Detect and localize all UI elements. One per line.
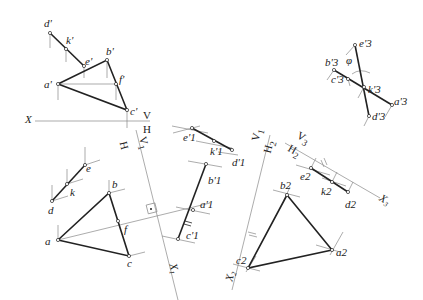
label-b3-prime: b'3 [325, 57, 338, 68]
label-c-prime: c' [130, 106, 137, 117]
label-e: e [86, 163, 91, 174]
plane-h-label: H [143, 124, 151, 135]
label-a: a [45, 236, 51, 247]
triangle-abc-h2 [248, 195, 332, 268]
axis-x-label: X [25, 114, 32, 125]
label-c: c [127, 258, 132, 269]
label-a3-prime: a'3 [394, 96, 407, 107]
angle-phi: φ [346, 55, 352, 66]
label-k3-prime: k'3 [368, 84, 381, 95]
label-k-prime: k' [66, 35, 73, 46]
label-a-prime: a' [44, 79, 52, 90]
label-a1-prime: a'1 [200, 199, 213, 210]
label-c1-prime: c'1 [186, 230, 199, 241]
label-b-prime: b' [106, 46, 114, 57]
label-k1-prime: k'1 [210, 146, 223, 157]
axis-x1 [136, 130, 178, 300]
label-a2: a2 [336, 247, 347, 258]
right-angle-dot [150, 208, 152, 210]
label-e3-prime: e'3 [359, 38, 372, 49]
label-d2: d2 [345, 199, 356, 210]
segment-de-v3 [355, 45, 369, 116]
label-k2: k2 [321, 186, 331, 197]
label-e-prime: e' [85, 56, 92, 67]
label-e2: e2 [300, 171, 310, 182]
triangle-abc-h [58, 193, 129, 256]
label-f-prime: f' [119, 74, 124, 85]
label-b1-prime: b'1 [208, 175, 221, 186]
label-d3-prime: d'3 [372, 111, 385, 122]
plane-v-label: V [143, 110, 151, 121]
label-b: b [112, 179, 118, 190]
label-d: d [48, 205, 54, 216]
label-c2: c2 [236, 255, 246, 266]
label-f: f [124, 224, 127, 235]
label-d-prime: d' [44, 18, 52, 29]
label-c3-prime: c'3 [331, 74, 344, 85]
label-k: k [70, 187, 75, 198]
label-b2: b2 [280, 180, 291, 191]
label-e1-prime: e'1 [183, 132, 196, 143]
label-d1-prime: d'1 [232, 157, 245, 168]
